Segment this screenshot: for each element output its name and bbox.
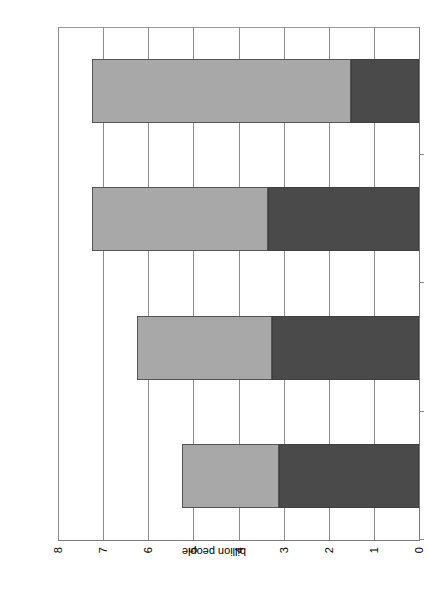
bar-segment <box>351 59 419 123</box>
bar-segment <box>92 59 351 123</box>
value-tick-label: 6 <box>143 547 154 553</box>
value-tick-label: 0 <box>414 547 425 553</box>
bar-stack <box>58 187 419 251</box>
bar-segment <box>279 444 419 508</box>
value-tick-label: 3 <box>278 547 289 553</box>
bar-segment <box>272 316 419 380</box>
rotated-figure: 012345678 1990200320052015(MDG) billion … <box>0 0 428 596</box>
category-tick <box>419 283 424 284</box>
bar-stack <box>58 59 419 123</box>
bar-stack <box>58 444 419 508</box>
bar-stack <box>58 316 419 380</box>
bar-segment <box>182 444 279 508</box>
value-tick-label: 2 <box>323 547 334 553</box>
bar-segment <box>268 187 419 251</box>
value-tick-label: 1 <box>368 547 379 553</box>
value-axis-title: billion people <box>182 546 246 558</box>
plot-area: 012345678 1990200320052015(MDG) <box>58 27 420 541</box>
category-tick <box>419 411 424 412</box>
category-tick <box>419 154 424 155</box>
bar-segment <box>137 316 272 380</box>
category-tick <box>419 539 424 540</box>
bar-segment <box>92 187 268 251</box>
value-tick-label: 8 <box>53 547 64 553</box>
chart-canvas: 012345678 1990200320052015(MDG) billion … <box>0 0 428 596</box>
value-tick-label: 7 <box>98 547 109 553</box>
